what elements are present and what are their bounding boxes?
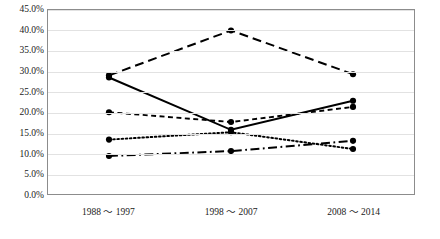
- y-axis-tick-labels: 45.0%40.0%35.0%30.0%25.0%20.0%15.0%10.0%…: [0, 0, 44, 239]
- series-line-series-2-long-dash: [109, 30, 353, 75]
- y-tick-label: 35.0%: [2, 45, 44, 55]
- series-layer: [48, 10, 414, 194]
- gridline: [48, 72, 414, 73]
- y-tick-label: 40.0%: [2, 25, 44, 35]
- plot-area: [47, 9, 415, 195]
- data-point-marker: [106, 72, 112, 78]
- data-point-marker: [350, 104, 356, 110]
- gridline: [48, 175, 414, 176]
- data-point-marker: [106, 137, 112, 143]
- gridline: [48, 30, 414, 31]
- y-tick-label: 15.0%: [2, 128, 44, 138]
- gridline: [48, 134, 414, 135]
- gridline: [48, 113, 414, 114]
- y-tick-label: 0.0%: [2, 190, 44, 200]
- y-tick-label: 30.0%: [2, 66, 44, 76]
- y-tick-label: 10.0%: [2, 149, 44, 159]
- data-point-marker: [350, 146, 356, 152]
- data-point-marker: [350, 98, 356, 104]
- gridline: [48, 154, 414, 155]
- data-point-marker: [350, 138, 356, 144]
- gridline: [48, 10, 414, 11]
- y-tick-label: 45.0%: [2, 4, 44, 14]
- x-tick-label: 1998 ～ 2007: [181, 207, 281, 218]
- y-tick-label: 20.0%: [2, 107, 44, 117]
- x-tick-label: 2008 ～ 2014: [304, 207, 404, 218]
- y-tick-label: 5.0%: [2, 169, 44, 179]
- gridline: [48, 51, 414, 52]
- x-tick-label: 1988 ～ 1997: [58, 207, 158, 218]
- data-point-marker: [228, 119, 234, 125]
- line-chart: 45.0%40.0%35.0%30.0%25.0%20.0%15.0%10.0%…: [0, 0, 440, 239]
- gridline: [48, 92, 414, 93]
- y-tick-label: 25.0%: [2, 87, 44, 97]
